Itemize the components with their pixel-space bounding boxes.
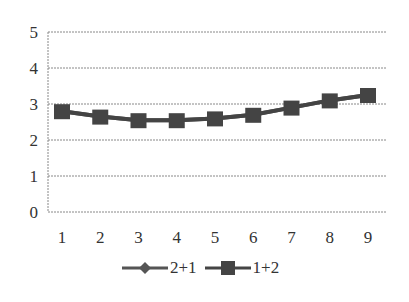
legend-item-2plus1: 2+1 <box>120 258 197 278</box>
x-tick-label: 2 <box>96 228 105 247</box>
square-icon <box>203 260 253 276</box>
x-tick-label: 7 <box>287 228 296 247</box>
x-tick-label: 8 <box>326 228 335 247</box>
x-tick-label: 3 <box>134 228 143 247</box>
y-tick-label: 2 <box>30 131 39 150</box>
square-marker <box>322 93 338 108</box>
x-tick-label: 1 <box>58 228 67 247</box>
x-tick-label: 4 <box>173 228 182 247</box>
x-tick-label: 9 <box>364 228 373 247</box>
square-marker <box>284 101 300 116</box>
diamond-icon <box>120 260 170 276</box>
y-tick-label: 3 <box>30 95 39 114</box>
square-marker <box>245 108 261 123</box>
x-axis: 123456789 <box>58 228 373 247</box>
legend-label: 1+2 <box>253 258 280 278</box>
y-tick-label: 0 <box>30 203 39 222</box>
legend: 2+1 1+2 <box>120 258 285 278</box>
line-chart: 012345 123456789 <box>0 0 409 302</box>
square-marker <box>360 88 376 103</box>
x-tick-label: 6 <box>249 228 258 247</box>
square-marker <box>131 113 147 128</box>
series-lines <box>54 88 376 128</box>
legend-item-1plus2: 1+2 <box>203 258 280 278</box>
square-marker <box>169 113 185 128</box>
square-marker <box>92 110 108 125</box>
y-tick-label: 1 <box>30 167 39 186</box>
legend-label: 2+1 <box>170 258 197 278</box>
x-tick-label: 5 <box>211 228 220 247</box>
y-tick-label: 5 <box>30 23 39 42</box>
y-tick-label: 4 <box>30 59 39 78</box>
y-axis: 012345 <box>30 23 49 222</box>
square-marker <box>207 111 223 126</box>
square-marker <box>54 104 70 119</box>
